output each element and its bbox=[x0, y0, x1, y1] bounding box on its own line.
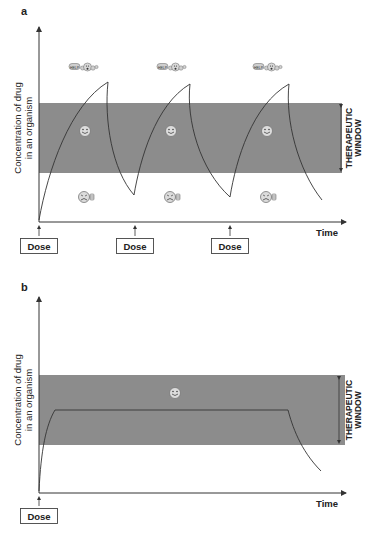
panel-a: a Concentration of drug in an organism T… bbox=[12, 5, 363, 254]
dose-label: Dose bbox=[27, 511, 50, 522]
panel-a-dose-1: Dose bbox=[21, 227, 58, 254]
dose-label: Dose bbox=[27, 241, 50, 252]
svg-text:Concentration of drug: Concentration of drug bbox=[12, 354, 23, 445]
toxic-help-icon bbox=[253, 63, 282, 71]
happy-face-icon bbox=[80, 126, 91, 137]
toxic-help-icon bbox=[157, 63, 186, 71]
happy-face-icon bbox=[166, 126, 177, 137]
panel-b-y-axis-label: Concentration of drug in an organism bbox=[12, 354, 34, 445]
toxic-help-icon bbox=[69, 63, 98, 71]
happy-face-icon bbox=[262, 126, 273, 137]
svg-text:WINDOW: WINDOW bbox=[353, 118, 363, 156]
sad-face-thumbs-down-icon bbox=[79, 192, 95, 203]
sad-face-thumbs-down-icon bbox=[261, 192, 277, 203]
panel-b: b Concentration of drug in an organism T… bbox=[12, 281, 363, 524]
dose-label: Dose bbox=[218, 241, 241, 252]
panel-a-window-label: THERAPEUTIC WINDOW bbox=[344, 108, 363, 168]
happy-face-icon bbox=[170, 388, 181, 399]
panel-a-time-label: Time bbox=[316, 227, 338, 238]
panel-b-window-label: THERAPEUTIC WINDOW bbox=[344, 380, 363, 440]
svg-text:in an organism: in an organism bbox=[23, 369, 34, 431]
sad-face-thumbs-down-icon bbox=[165, 192, 181, 203]
panel-a-dose-3: Dose bbox=[212, 227, 249, 254]
svg-text:Concentration of drug: Concentration of drug bbox=[12, 82, 23, 173]
panel-b-time-label: Time bbox=[316, 498, 338, 509]
panel-a-label: a bbox=[21, 5, 28, 17]
dose-label: Dose bbox=[123, 241, 146, 252]
svg-text:WINDOW: WINDOW bbox=[353, 390, 363, 428]
panel-b-label: b bbox=[21, 281, 28, 293]
panel-a-dose-2: Dose bbox=[117, 227, 154, 254]
panel-b-dose-1: Dose bbox=[21, 498, 58, 524]
svg-text:in an organism: in an organism bbox=[23, 97, 34, 159]
diagram-canvas: HELP a Concentration of drug in an organ… bbox=[0, 0, 382, 535]
panel-a-y-axis-label: Concentration of drug in an organism bbox=[12, 82, 34, 173]
